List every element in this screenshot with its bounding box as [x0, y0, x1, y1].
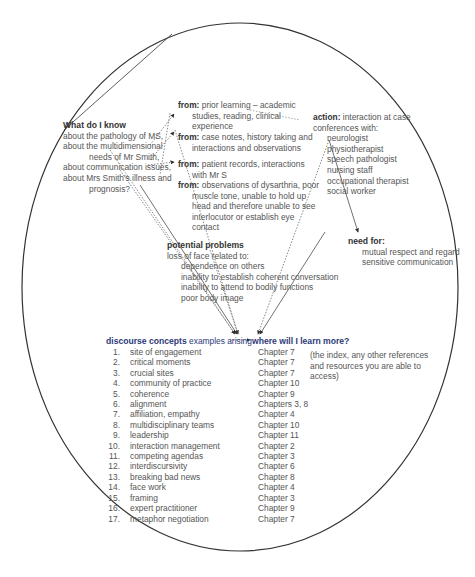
- concept-ref: Chapter 10: [258, 420, 299, 430]
- source-line: experience: [178, 121, 296, 132]
- know-line: needs of Mr Smith,: [63, 152, 172, 163]
- source-label: from:: [178, 180, 199, 190]
- know-block: What do I know about the pathology of MS…: [63, 120, 172, 194]
- problem-item: poor body image: [167, 293, 338, 304]
- concept-row: 10.interaction managementChapter 2: [100, 441, 308, 451]
- source-line: muscle tone, unable to hold up: [178, 191, 319, 202]
- source-block-1: from: prior learning – academic studies,…: [178, 100, 296, 132]
- concept-ref: Chapter 3: [258, 493, 295, 503]
- concept-term: site of engagement: [130, 347, 258, 357]
- learn-note: (the index, any other references and res…: [310, 350, 428, 382]
- concept-number: 5.: [100, 389, 120, 399]
- concepts-heading-bold: discourse concepts: [106, 336, 187, 346]
- concept-number: 2.: [100, 357, 120, 367]
- concept-number: 1.: [100, 347, 120, 357]
- participant: occupational therapist: [313, 176, 411, 187]
- concept-term: coherence: [130, 389, 258, 399]
- concept-number: 16.: [100, 503, 120, 513]
- concept-row: 17.metaphor negotiationChapter 7: [100, 514, 308, 524]
- concept-ref: Chapter 3: [258, 451, 295, 461]
- concept-ref: Chapter 10: [258, 378, 299, 388]
- concept-term: metaphor negotiation: [130, 514, 258, 524]
- concept-row: 3.crucial sitesChapter 7: [100, 368, 308, 378]
- know-line: about the multidimensional: [63, 141, 172, 152]
- concept-ref: Chapter 7: [258, 514, 295, 524]
- note-line: and resources you are able to: [310, 361, 428, 372]
- concept-term: interaction management: [130, 441, 258, 451]
- problems-block: potential problems loss of face related …: [167, 240, 338, 304]
- problems-intro: loss of face related to:: [167, 251, 338, 262]
- concept-row: 9.leadershipChapter 11: [100, 430, 308, 440]
- participant: nursing staff: [313, 165, 411, 176]
- concept-ref: Chapter 4: [258, 409, 295, 419]
- concept-ref: Chapter 9: [258, 389, 295, 399]
- know-line: prognosis?: [63, 184, 172, 195]
- concept-number: 15.: [100, 493, 120, 503]
- participant: speech pathologist: [313, 154, 411, 165]
- need-line: mutual respect and regard: [348, 247, 460, 258]
- concept-row: 14.face workChapter 4: [100, 482, 308, 492]
- concept-row: 6.alignmentChapters 3, 8: [100, 399, 308, 409]
- problem-item: inability to attend to bodily functions: [167, 282, 338, 293]
- learn-heading: where will I learn more?: [252, 336, 349, 347]
- concept-number: 14.: [100, 482, 120, 492]
- source-block-2: from: case notes, history taking and int…: [178, 132, 313, 153]
- learn-heading-rest: I learn more?: [295, 336, 349, 346]
- action-line: conferences with:: [313, 123, 411, 134]
- concept-term: affiliation, empathy: [130, 409, 258, 419]
- know-line: about Mrs Smith's illness and: [63, 173, 172, 184]
- source-line: interactions and observations: [178, 143, 313, 154]
- concept-term: community of practice: [130, 378, 258, 388]
- concept-term: interdiscursivity: [130, 461, 258, 471]
- concept-row: 8.multidisciplinary teamsChapter 10: [100, 420, 308, 430]
- concepts-heading: discourse concepts examples arising: [106, 336, 252, 347]
- source-line: patient records, interactions: [202, 159, 305, 169]
- source-line: with Mr S: [178, 170, 305, 181]
- source-block-4: from: observations of dysarthria, poor m…: [178, 180, 319, 233]
- source-label: from:: [178, 132, 199, 142]
- concept-number: 3.: [100, 368, 120, 378]
- concepts-heading-rest: examples arising: [189, 336, 252, 346]
- concept-number: 9.: [100, 430, 120, 440]
- source-line: studies, reading, clinical: [178, 111, 296, 122]
- concept-row: 11.competing agendasChapter 3: [100, 451, 308, 461]
- concept-term: competing agendas: [130, 451, 258, 461]
- concept-row: 5.coherenceChapter 9: [100, 389, 308, 399]
- need-block: need for: mutual respect and regard sens…: [348, 236, 460, 268]
- concepts-list: 1.site of engagementChapter 7 2.critical…: [100, 347, 308, 524]
- problems-heading: potential problems: [167, 240, 338, 251]
- source-line: head and therefore unable to see: [178, 201, 319, 212]
- concept-number: 12.: [100, 461, 120, 471]
- concept-row: 1.site of engagementChapter 7: [100, 347, 308, 357]
- participant: physiotherapist: [313, 144, 411, 155]
- concept-ref: Chapter 9: [258, 503, 295, 513]
- note-line: access): [310, 371, 428, 382]
- concept-ref: Chapter 6: [258, 461, 295, 471]
- concept-row: 16.expert practitionerChapter 9: [100, 503, 308, 513]
- problem-item: inability to establish coherent conversa…: [167, 272, 338, 283]
- action-line: interaction at case: [343, 112, 411, 122]
- concept-number: 13.: [100, 472, 120, 482]
- concept-ref: Chapter 7: [258, 368, 295, 378]
- concept-term: framing: [130, 493, 258, 503]
- learn-heading-bold: where will: [252, 336, 293, 346]
- know-heading: What do I know: [63, 120, 172, 131]
- concept-ref: Chapter 7: [258, 357, 295, 367]
- participant: social worker: [313, 186, 411, 197]
- concept-term: crucial sites: [130, 368, 258, 378]
- need-label: need for:: [348, 236, 460, 247]
- concept-term: expert practitioner: [130, 503, 258, 513]
- concept-row: 7.affiliation, empathyChapter 4: [100, 409, 308, 419]
- concept-term: alignment: [130, 399, 258, 409]
- concept-row: 4.community of practiceChapter 10: [100, 378, 308, 388]
- concept-row: 12.interdiscursivityChapter 6: [100, 461, 308, 471]
- note-line: (the index, any other references: [310, 350, 428, 361]
- concept-term: multidisciplinary teams: [130, 420, 258, 430]
- concept-ref: Chapter 11: [258, 430, 299, 440]
- concept-number: 17.: [100, 514, 120, 524]
- concept-ref: Chapters 3, 8: [258, 399, 308, 409]
- source-line: interlocutor or establish eye: [178, 212, 319, 223]
- source-line: prior learning – academic: [202, 100, 296, 110]
- concept-row: 13.breaking bad newsChapter 8: [100, 472, 308, 482]
- concept-ref: Chapter 2: [258, 441, 295, 451]
